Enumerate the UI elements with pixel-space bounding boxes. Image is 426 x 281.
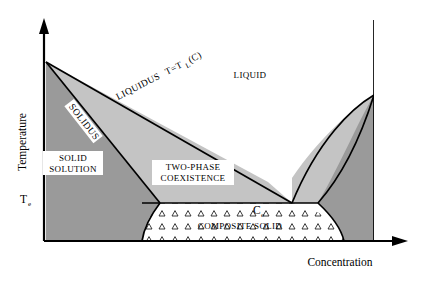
y-axis-arrowhead	[39, 18, 49, 34]
region-label-liquid: LIQUID	[234, 70, 267, 80]
y-axis-label: Temperature	[16, 113, 29, 171]
curve-label-liquidus: LIQUIDUS T=T L (C)	[114, 50, 204, 105]
liquidus-label-main: LIQUIDUS	[114, 71, 161, 102]
x-axis-label: Concentration	[307, 256, 372, 268]
two-phase-label-line1: TWO-PHASE	[166, 162, 221, 172]
region-label-two-phase: TWO-PHASE COEXISTENCE	[152, 160, 234, 185]
x-axis-arrowhead	[392, 236, 408, 246]
y-tick-base: T	[20, 193, 27, 205]
liquidus-label-equation: T=T	[163, 60, 184, 77]
y-axis-tick-label: T e	[20, 193, 31, 208]
solid-solution-label-line2: SOLUTION	[49, 164, 97, 174]
phase-diagram-svg: Temperature T e Concentration LIQUID SOL…	[0, 0, 426, 281]
region-label-composite-solid: COMPOSITE SOLID	[198, 221, 282, 231]
solid-solution-label-line1: SOLID	[59, 153, 87, 163]
y-tick-subscript: e	[28, 200, 31, 208]
eutectic-point-label-base: C	[253, 204, 261, 216]
eutectic-point-label-sub: e	[261, 211, 264, 219]
region-label-solid-solution: SOLID SOLUTION	[43, 151, 103, 175]
phase-diagram-figure: Temperature T e Concentration LIQUID SOL…	[0, 0, 426, 281]
two-phase-label-line2: COEXISTENCE	[161, 173, 226, 183]
